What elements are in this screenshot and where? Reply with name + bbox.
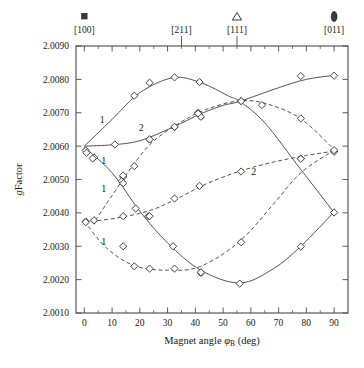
data-point-diamond (171, 265, 178, 272)
data-point-diamond (171, 74, 178, 81)
data-point-diamond (331, 72, 338, 79)
fit-curve-branch-1-upper-solid (84, 77, 334, 212)
x-tick-label: 70 (274, 318, 284, 328)
direction-label: [111] (227, 25, 247, 35)
x-axis-ticks: 0102030405060708090 (82, 46, 339, 328)
data-point-diamond (131, 263, 138, 270)
data-point-diamond (238, 97, 245, 104)
x-tick-label: 0 (82, 318, 87, 328)
x-tick-label: 50 (218, 318, 228, 328)
x-tick-label: 20 (135, 318, 145, 328)
y-tick-label: 2.0030 (43, 242, 69, 252)
filled-square-icon (81, 13, 87, 19)
data-point-markers (82, 72, 338, 287)
data-point-diamond (238, 239, 245, 246)
top-direction-axis: [100][211][111][011] (74, 11, 344, 46)
data-point-diamond (171, 195, 178, 202)
x-tick-label: 60 (246, 318, 256, 328)
data-point-diamond (258, 101, 265, 108)
filled-ellipse-icon (331, 11, 338, 22)
data-point-diamond (146, 136, 153, 143)
branch-label: 2 (139, 122, 144, 133)
x-axis-title: Magnet angle φB (deg) (164, 335, 260, 348)
branch-label: 2 (251, 166, 256, 177)
data-point-diamond (196, 78, 203, 85)
data-point-diamond (111, 141, 118, 148)
x-tick-label: 10 (107, 318, 117, 328)
direction-label: [211] (171, 25, 191, 35)
data-point-diamond (297, 115, 304, 122)
data-point-diamond (238, 168, 245, 175)
y-axis-ticks: 2.00102.00202.00302.00402.00502.00602.00… (43, 41, 348, 318)
direction-label: [100] (74, 25, 95, 35)
x-tick-label: 30 (163, 318, 173, 328)
fit-curve-branch-1-lower-dashed (84, 150, 334, 270)
y-tick-label: 2.0010 (43, 308, 69, 318)
data-point-diamond (236, 280, 243, 287)
data-point-diamond (131, 92, 138, 99)
x-tick-label: 90 (329, 318, 339, 328)
data-point-diamond (132, 205, 139, 212)
y-tick-label: 2.0080 (43, 75, 69, 85)
y-tick-label: 2.0040 (43, 208, 69, 218)
branch-label: 1 (101, 155, 106, 166)
y-tick-label: 2.0090 (43, 41, 69, 51)
open-triangle-icon (232, 13, 241, 21)
direction-label: [011] (324, 25, 344, 35)
data-point-diamond (146, 265, 153, 272)
data-point-diamond (297, 72, 304, 79)
y-tick-label: 2.0070 (43, 108, 69, 118)
g-factor-angular-dependence-chart: [100][211][111][011] 0102030405060708090… (0, 0, 364, 368)
branch-label: 1 (101, 183, 106, 194)
data-point-diamond (82, 219, 89, 226)
branch-label: 1 (101, 236, 106, 247)
chart-canvas: [100][211][111][011] 0102030405060708090… (0, 0, 364, 368)
x-tick-label: 40 (191, 318, 201, 328)
data-point-diamond (120, 213, 127, 220)
data-point-diamond (297, 155, 304, 162)
data-point-diamond (170, 243, 177, 250)
data-point-diamond (120, 243, 127, 250)
y-tick-label: 2.0020 (43, 275, 69, 285)
y-tick-label: 2.0050 (43, 175, 69, 185)
y-axis-title: gFactor (13, 163, 24, 196)
branch-label: 1 (100, 114, 105, 125)
x-tick-label: 80 (302, 318, 312, 328)
data-point-diamond (197, 269, 204, 276)
fit-curve-branch-2-lower-dashed (84, 151, 334, 222)
data-point-diamond (131, 163, 138, 170)
y-tick-label: 2.0060 (43, 142, 69, 152)
